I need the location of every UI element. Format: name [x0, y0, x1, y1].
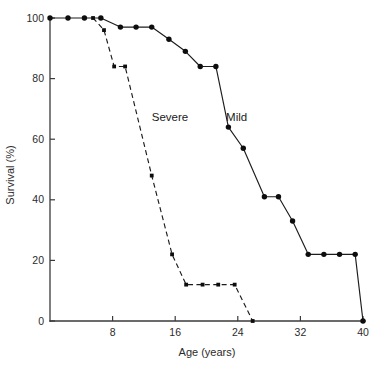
- data-point-severe: [102, 28, 106, 32]
- y-axis-group: 020406080100: [26, 12, 55, 327]
- x-tick-label: 40: [357, 326, 369, 338]
- data-point-mild: [262, 194, 267, 199]
- data-point-mild: [360, 318, 365, 323]
- data-point-severe: [123, 65, 127, 69]
- data-point-severe: [184, 283, 188, 287]
- data-point-severe: [170, 252, 174, 256]
- data-point-mild: [183, 49, 188, 54]
- y-axis-title: Survival (%): [4, 145, 16, 204]
- data-point-mild: [337, 252, 342, 257]
- data-point-mild: [226, 124, 231, 129]
- x-tick-label: 24: [232, 326, 244, 338]
- data-point-mild: [213, 64, 218, 69]
- data-series-layer: [47, 15, 365, 323]
- data-point-mild: [166, 37, 171, 42]
- data-point-mild: [118, 24, 123, 29]
- x-tick-label: 8: [110, 326, 116, 338]
- data-point-mild: [65, 15, 70, 20]
- series-line-severe: [93, 18, 253, 321]
- data-point-mild: [306, 252, 311, 257]
- data-point-mild: [352, 252, 357, 257]
- data-point-mild: [98, 15, 103, 20]
- data-point-mild: [47, 15, 52, 20]
- data-point-severe: [201, 283, 205, 287]
- y-tick-label: 20: [32, 254, 44, 266]
- y-tick-label: 60: [32, 133, 44, 145]
- data-point-mild: [276, 194, 281, 199]
- data-point-mild: [149, 24, 154, 29]
- y-tick-label: 100: [26, 12, 44, 24]
- data-point-mild: [133, 24, 138, 29]
- survival-curve-figure: 020406080100 816243240 MildSevere Age (y…: [0, 0, 381, 368]
- data-point-severe: [251, 319, 255, 323]
- series-line-mild: [50, 18, 363, 321]
- x-tick-label: 16: [169, 326, 181, 338]
- x-tick-group: 816243240: [110, 316, 369, 338]
- data-point-severe: [150, 174, 154, 178]
- y-tick-label: 40: [32, 193, 44, 205]
- data-point-severe: [216, 283, 220, 287]
- x-axis-title: Age (years): [179, 346, 236, 358]
- data-point-mild: [82, 15, 87, 20]
- x-axis-group: 816243240: [50, 316, 369, 338]
- data-point-severe: [91, 16, 95, 20]
- data-point-mild: [241, 146, 246, 151]
- data-point-mild: [290, 218, 295, 223]
- series-label-severe: Severe: [152, 111, 188, 123]
- y-tick-group: 020406080100: [26, 12, 55, 327]
- x-tick-label: 32: [295, 326, 307, 338]
- data-point-severe: [112, 65, 116, 69]
- series-label-layer: MildSevere: [152, 111, 247, 123]
- data-point-severe: [233, 283, 237, 287]
- data-point-mild: [321, 252, 326, 257]
- y-tick-label: 80: [32, 72, 44, 84]
- data-point-mild: [198, 64, 203, 69]
- chart-canvas: 020406080100 816243240 MildSevere Age (y…: [0, 0, 381, 368]
- y-tick-label: 0: [38, 315, 44, 327]
- series-label-mild: Mild: [226, 111, 247, 123]
